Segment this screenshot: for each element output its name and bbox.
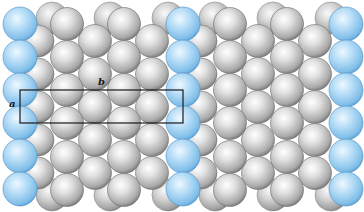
blue-sphere bbox=[329, 106, 363, 140]
sphere bbox=[108, 8, 141, 41]
sphere bbox=[136, 91, 169, 124]
blue-sphere bbox=[329, 73, 363, 107]
sphere bbox=[271, 8, 304, 41]
sphere bbox=[242, 91, 275, 124]
lattice-vector-a-label: a bbox=[9, 98, 15, 109]
sphere bbox=[242, 157, 275, 190]
blue-sphere bbox=[166, 7, 200, 41]
sphere bbox=[299, 157, 332, 190]
sphere bbox=[214, 74, 247, 107]
sphere bbox=[51, 174, 84, 207]
sphere bbox=[108, 141, 141, 174]
sphere bbox=[242, 58, 275, 91]
sphere bbox=[242, 25, 275, 58]
sphere bbox=[299, 58, 332, 91]
sphere bbox=[271, 141, 304, 174]
blue-sphere bbox=[3, 7, 37, 41]
sphere bbox=[108, 174, 141, 207]
sphere bbox=[271, 174, 304, 207]
sphere bbox=[136, 157, 169, 190]
sphere bbox=[242, 124, 275, 157]
blue-sphere bbox=[329, 7, 363, 41]
blue-sphere bbox=[329, 40, 363, 74]
lattice-vector-b-label: b bbox=[98, 76, 105, 87]
sphere bbox=[214, 8, 247, 41]
sphere bbox=[79, 91, 112, 124]
blue-sphere bbox=[329, 172, 363, 206]
sphere bbox=[299, 25, 332, 58]
sphere bbox=[271, 74, 304, 107]
sphere bbox=[79, 157, 112, 190]
sphere bbox=[136, 124, 169, 157]
sphere bbox=[271, 107, 304, 140]
blue-sphere bbox=[3, 40, 37, 74]
sphere bbox=[51, 8, 84, 41]
sphere bbox=[51, 41, 84, 74]
sphere bbox=[79, 124, 112, 157]
sphere bbox=[214, 174, 247, 207]
blue-sphere bbox=[166, 172, 200, 206]
sphere bbox=[136, 58, 169, 91]
sphere bbox=[108, 41, 141, 74]
sphere bbox=[271, 41, 304, 74]
sphere bbox=[214, 41, 247, 74]
sphere bbox=[136, 25, 169, 58]
sphere bbox=[299, 124, 332, 157]
lattice-svg: a b bbox=[0, 0, 364, 212]
sphere bbox=[214, 141, 247, 174]
sphere-lattice-figure: a b bbox=[0, 0, 364, 212]
sphere bbox=[79, 58, 112, 91]
sphere bbox=[299, 91, 332, 124]
blue-sphere bbox=[166, 139, 200, 173]
sphere bbox=[51, 141, 84, 174]
blue-sphere bbox=[3, 139, 37, 173]
blue-sphere bbox=[3, 172, 37, 206]
blue-sphere bbox=[329, 139, 363, 173]
sphere bbox=[79, 25, 112, 58]
blue-sphere bbox=[166, 40, 200, 74]
sphere bbox=[214, 107, 247, 140]
